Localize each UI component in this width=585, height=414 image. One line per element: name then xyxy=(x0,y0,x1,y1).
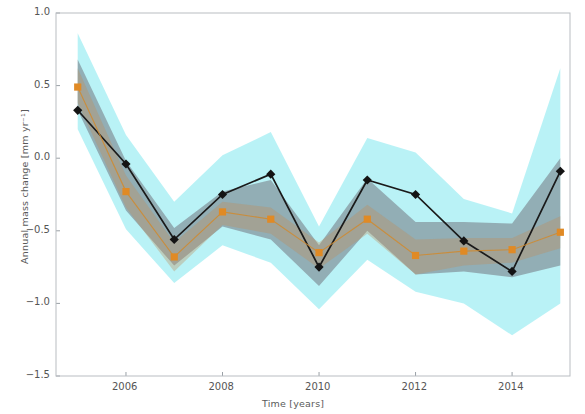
plot-area xyxy=(0,0,585,414)
chart-figure: Annual mass change [mm yr⁻¹] Time [years… xyxy=(0,0,585,414)
uncertainty-bands xyxy=(78,33,561,335)
